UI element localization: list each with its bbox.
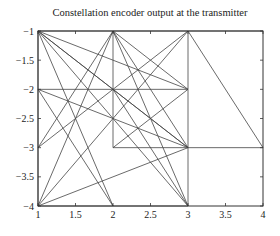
constellation-lines xyxy=(38,31,263,206)
y-tick-label: −1.5 xyxy=(16,55,34,66)
y-tick-label: −1 xyxy=(23,26,34,37)
y-tick-label: −3 xyxy=(23,142,34,153)
y-tick-label: −4 xyxy=(23,201,34,212)
y-tick-label: −2.5 xyxy=(16,113,34,124)
x-tick-label: 3.5 xyxy=(219,209,232,220)
constellation-segment xyxy=(38,89,113,206)
x-axis-ticks: 11.522.533.54 xyxy=(36,31,266,220)
y-axis-ticks: −1−1.5−2−2.5−3−3.5−4 xyxy=(16,26,263,212)
y-tick-label: −3.5 xyxy=(16,171,34,182)
x-tick-label: 2.5 xyxy=(144,209,157,220)
x-tick-label: 3 xyxy=(186,209,191,220)
y-tick-label: −2 xyxy=(23,84,34,95)
x-tick-label: 4 xyxy=(261,209,266,220)
constellation-segment xyxy=(38,148,188,206)
x-tick-label: 1.5 xyxy=(69,209,82,220)
x-tick-label: 2 xyxy=(111,209,116,220)
chart-plot: 11.522.533.54 −1−1.5−2−2.5−3−3.5−4 xyxy=(0,0,280,236)
constellation-segment xyxy=(188,31,263,148)
constellation-segment xyxy=(38,89,113,147)
x-tick-label: 1 xyxy=(36,209,41,220)
